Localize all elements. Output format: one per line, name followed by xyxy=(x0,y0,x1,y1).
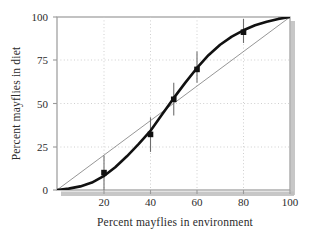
chart-canvas: 100 75 50 25 0 20 40 60 80 100 Percent m… xyxy=(0,0,319,238)
chart-figure: 100 75 50 25 0 20 40 60 80 100 Percent m… xyxy=(0,0,319,238)
y-axis-title: Percent mayflies in diet xyxy=(10,46,23,160)
x-tick-label-100: 100 xyxy=(282,196,299,208)
data-point-x50 xyxy=(171,97,177,103)
x-tick-label-80: 80 xyxy=(238,196,250,208)
data-point-x20 xyxy=(101,170,107,176)
y-tick-label-0: 0 xyxy=(43,184,49,196)
y-tick-label-75: 75 xyxy=(37,54,49,66)
data-point-x40 xyxy=(148,132,154,138)
y-tick-label-50: 50 xyxy=(37,98,49,110)
x-tick-label-40: 40 xyxy=(145,196,157,208)
data-point-x80 xyxy=(241,29,247,35)
data-point-x60 xyxy=(194,67,200,73)
x-axis-title: Percent mayflies in environment xyxy=(97,216,254,229)
y-tick-label-25: 25 xyxy=(37,141,49,153)
x-tick-label-60: 60 xyxy=(192,196,204,208)
y-tick-label-100: 100 xyxy=(32,11,49,23)
x-tick-label-20: 20 xyxy=(99,196,111,208)
